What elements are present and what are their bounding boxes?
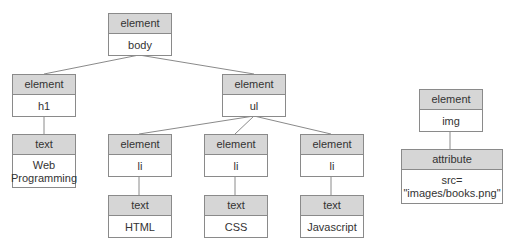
node-type: text (301, 196, 363, 216)
node-type: element (205, 135, 267, 155)
node-img: element img (419, 89, 483, 132)
node-type: text (109, 196, 171, 216)
node-li-3: element li (300, 134, 364, 177)
node-type: text (205, 196, 267, 216)
node-text-javascript: text Javascript (300, 195, 364, 238)
edge-ul-li1 (139, 116, 254, 134)
node-h1: element h1 (12, 74, 76, 117)
edge-body-ul (139, 55, 254, 74)
node-value: ul (223, 95, 285, 117)
node-value: src= "images/books.png" (402, 170, 502, 204)
node-value: HTML (109, 216, 171, 238)
node-value: CSS (205, 216, 267, 238)
edge-body-h1 (44, 55, 139, 74)
node-value: Web Programming (13, 155, 75, 188)
node-type: element (420, 90, 482, 110)
node-type: element (13, 75, 75, 95)
node-type: element (109, 135, 171, 155)
node-li-2: element li (204, 134, 268, 177)
edge-ul-li3 (254, 116, 331, 134)
node-type: attribute (402, 150, 502, 170)
node-value: h1 (13, 95, 75, 117)
node-body: element body (108, 13, 172, 56)
node-value: Javascript (301, 216, 363, 238)
node-value: img (420, 110, 482, 132)
node-li-1: element li (108, 134, 172, 177)
node-type: text (13, 135, 75, 155)
node-type: element (301, 135, 363, 155)
node-text-web-programming: text Web Programming (12, 134, 76, 188)
node-value: li (109, 155, 171, 177)
node-type: element (223, 75, 285, 95)
node-value: body (109, 34, 171, 56)
node-type: element (109, 14, 171, 34)
node-ul: element ul (222, 74, 286, 117)
node-text-css: text CSS (204, 195, 268, 238)
node-value: li (205, 155, 267, 177)
node-value: li (301, 155, 363, 177)
node-text-html: text HTML (108, 195, 172, 238)
node-attribute-src: attribute src= "images/books.png" (401, 149, 503, 204)
